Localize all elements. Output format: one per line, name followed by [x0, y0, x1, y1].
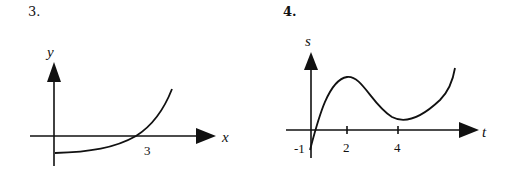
tick-label-2: 2	[343, 140, 350, 155]
t-axis-arrow-icon	[459, 122, 479, 138]
tick-label-4: 4	[394, 140, 401, 155]
curve	[55, 89, 172, 153]
x-axis-label: x	[221, 129, 229, 145]
x-axis-arrow-icon	[196, 128, 216, 144]
s-axis-label: s	[305, 33, 311, 49]
y-axis-arrow-icon	[47, 62, 61, 82]
y-axis-label: y	[45, 44, 54, 60]
tick-label-3: 3	[144, 143, 151, 158]
tick-label-neg1: -1	[294, 141, 305, 156]
s-axis-arrow-icon	[304, 52, 318, 70]
curve	[310, 68, 455, 150]
graph-3: y x 3	[30, 44, 229, 166]
graph-4: s t -1 2 4	[286, 33, 487, 158]
graphs: y x 3 s t -1 2 4	[0, 0, 509, 174]
t-axis-label: t	[482, 124, 487, 140]
